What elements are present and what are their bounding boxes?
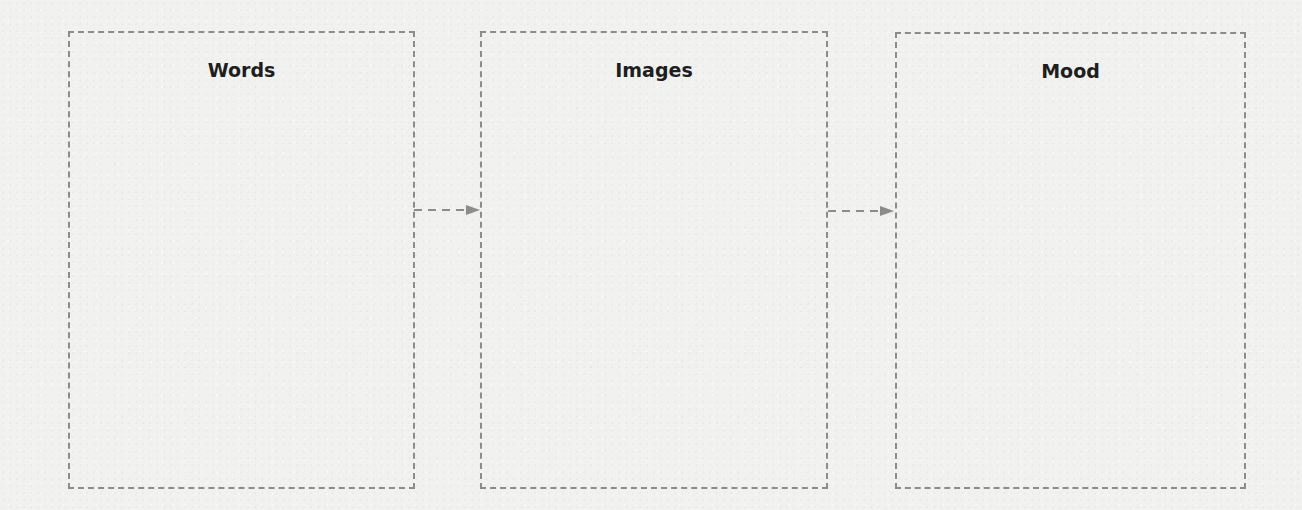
arrowhead-icon: [880, 206, 894, 216]
words-box-title: Words: [70, 59, 413, 81]
images-box-title: Images: [482, 59, 826, 81]
words-box: Words: [68, 31, 415, 489]
images-to-mood-arrow: [824, 196, 899, 221]
images-box: Images: [480, 31, 828, 489]
words-to-images-arrow: [410, 195, 485, 220]
arrowhead-icon: [466, 205, 480, 215]
mood-box: Mood: [895, 32, 1246, 489]
mood-box-title: Mood: [897, 60, 1244, 82]
